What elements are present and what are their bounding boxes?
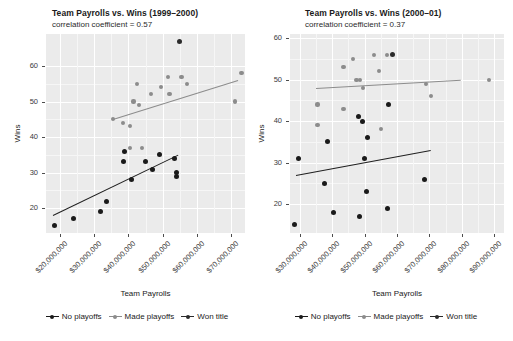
x-axis-tick-mark bbox=[300, 234, 301, 237]
legend-key-icon bbox=[295, 312, 308, 321]
panel-2-x-axis-title: Team Payrolls bbox=[290, 289, 504, 298]
figure-canvas: Team Payrolls vs. Wins (1999–2000)correl… bbox=[0, 0, 513, 341]
data-point bbox=[177, 39, 182, 44]
x-axis-tick-mark bbox=[332, 234, 333, 237]
gridline-x-minor bbox=[348, 34, 349, 233]
y-axis-tick-mark bbox=[286, 204, 289, 205]
panel-2-correlation-text: correlation coefficient = 0.37 bbox=[305, 20, 405, 29]
data-point bbox=[150, 167, 155, 172]
gridline-x bbox=[300, 34, 301, 233]
data-point bbox=[179, 75, 183, 79]
gridline-x bbox=[429, 34, 430, 233]
panel-1-title: Team Payrolls vs. Wins (1999–2000) bbox=[52, 8, 198, 18]
legend-label: Made playoffs bbox=[374, 313, 424, 321]
data-point bbox=[322, 181, 327, 186]
x-axis-tick-mark bbox=[231, 234, 232, 237]
legend-label: Made playoffs bbox=[125, 313, 175, 321]
y-axis-tick-label: 30 bbox=[264, 158, 282, 167]
data-point bbox=[390, 52, 395, 57]
gridline-x bbox=[397, 34, 398, 233]
data-point bbox=[128, 146, 132, 150]
gridline-x-minor bbox=[381, 34, 382, 233]
gridline-x-minor bbox=[214, 34, 215, 233]
gridline-x-minor bbox=[111, 34, 112, 233]
legend-item-no-playoffs[interactable]: No playoffs bbox=[46, 312, 102, 321]
panel-1-correlation-text: correlation coefficient = 0.57 bbox=[52, 20, 152, 29]
gridline-x bbox=[163, 34, 164, 233]
x-axis-tick-mark bbox=[197, 234, 198, 237]
data-point bbox=[422, 177, 427, 182]
y-axis-tick-mark bbox=[286, 121, 289, 122]
gridline-x bbox=[494, 34, 495, 233]
y-axis-tick-mark bbox=[42, 137, 45, 138]
panel-2-title: Team Payrolls vs. Wins (2000–01) bbox=[305, 8, 442, 18]
data-point bbox=[131, 99, 135, 103]
gridline-x-minor bbox=[478, 34, 479, 233]
data-point bbox=[239, 71, 243, 75]
y-axis-tick-label: 40 bbox=[20, 132, 38, 141]
legend-key-icon bbox=[46, 312, 59, 321]
y-axis-tick-mark bbox=[286, 163, 289, 164]
x-axis-tick-mark bbox=[429, 234, 430, 237]
data-point bbox=[385, 206, 390, 211]
data-point bbox=[315, 102, 319, 106]
gridline-x bbox=[365, 34, 366, 233]
y-axis-tick-mark bbox=[42, 102, 45, 103]
legend-item-won-title[interactable]: Won title bbox=[181, 312, 228, 321]
gridline-x-minor bbox=[413, 34, 414, 233]
x-axis-tick-mark bbox=[494, 234, 495, 237]
x-axis-tick-mark bbox=[128, 234, 129, 237]
data-point bbox=[364, 189, 369, 194]
data-point bbox=[315, 123, 319, 127]
gridline-x bbox=[462, 34, 463, 233]
data-point bbox=[140, 146, 144, 150]
y-axis-tick-label: 20 bbox=[20, 203, 38, 212]
data-point bbox=[185, 82, 189, 86]
legend-key-icon bbox=[109, 312, 122, 321]
data-point bbox=[135, 82, 139, 86]
data-point bbox=[341, 107, 345, 111]
data-point bbox=[296, 156, 301, 161]
legend-item-no-playoffs[interactable]: No playoffs bbox=[295, 312, 351, 321]
gridline-x bbox=[197, 34, 198, 233]
legend-key-icon bbox=[358, 312, 371, 321]
panel-2-y-axis-title: Wins bbox=[257, 118, 266, 148]
gridline-x-minor bbox=[316, 34, 317, 233]
data-point bbox=[358, 78, 362, 82]
panel-1-x-axis-title: Team Payrolls bbox=[46, 289, 245, 298]
legend-item-made-playoffs[interactable]: Made playoffs bbox=[109, 312, 175, 321]
gridline-x bbox=[60, 34, 61, 233]
legend-label: No playoffs bbox=[311, 313, 351, 321]
data-point bbox=[233, 99, 237, 103]
gridline-x bbox=[332, 34, 333, 233]
gridline-x-minor bbox=[180, 34, 181, 233]
y-axis-tick-mark bbox=[286, 80, 289, 81]
data-point bbox=[174, 174, 179, 179]
gridline-x bbox=[128, 34, 129, 233]
y-axis-tick-label: 60 bbox=[20, 61, 38, 70]
panel-1-legend: No playoffsMade playoffsWon title bbox=[24, 312, 250, 321]
gridline-x-minor bbox=[446, 34, 447, 233]
x-axis-tick-mark bbox=[60, 234, 61, 237]
legend-item-won-title[interactable]: Won title bbox=[430, 312, 477, 321]
legend-item-made-playoffs[interactable]: Made playoffs bbox=[358, 312, 424, 321]
y-axis-tick-mark bbox=[286, 38, 289, 39]
x-axis-tick-mark bbox=[163, 234, 164, 237]
data-point bbox=[137, 103, 141, 107]
gridline-x bbox=[94, 34, 95, 233]
y-axis-tick-label: 40 bbox=[264, 116, 282, 125]
data-point bbox=[341, 65, 345, 69]
y-axis-tick-label: 50 bbox=[20, 97, 38, 106]
y-axis-tick-mark bbox=[42, 208, 45, 209]
x-axis-tick-mark bbox=[462, 234, 463, 237]
y-axis-tick-label: 20 bbox=[264, 199, 282, 208]
gridline-x-minor bbox=[146, 34, 147, 233]
x-axis-tick-mark bbox=[365, 234, 366, 237]
y-axis-tick-mark bbox=[42, 66, 45, 67]
y-axis-tick-label: 50 bbox=[264, 75, 282, 84]
y-axis-tick-label: 60 bbox=[264, 33, 282, 42]
y-axis-tick-label: 30 bbox=[20, 168, 38, 177]
legend-label: No playoffs bbox=[62, 313, 102, 321]
y-axis-tick-mark bbox=[42, 173, 45, 174]
gridline-x bbox=[231, 34, 232, 233]
